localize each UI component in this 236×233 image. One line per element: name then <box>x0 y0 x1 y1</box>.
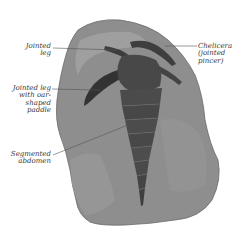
label-paddle-leg: Jointed leg with oar- shaped paddle <box>2 85 51 115</box>
label-jointed-leg: Jointed leg <box>4 43 51 58</box>
fossil-figure: Jointed leg Jointed leg with oar- shaped… <box>0 0 236 233</box>
label-segmented-abdomen: Segmented abdomen <box>2 151 51 166</box>
fossil-illustration <box>0 0 236 233</box>
carapace <box>118 55 162 92</box>
label-chelicera: Chelicera (jointed pincer) <box>198 43 236 65</box>
